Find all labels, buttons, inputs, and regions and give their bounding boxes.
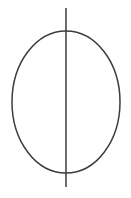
diagram-canvas	[0, 0, 131, 198]
diagram-svg	[0, 0, 131, 198]
